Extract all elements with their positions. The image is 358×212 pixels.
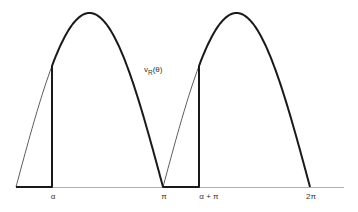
x-axis-labels: α π α + π 2π bbox=[51, 192, 317, 201]
label-two-pi: 2π bbox=[306, 192, 316, 201]
output-voltage-waveform bbox=[16, 13, 310, 187]
sine-reference-curve bbox=[16, 66, 199, 187]
label-alpha: α bbox=[51, 192, 56, 201]
label-alpha-plus-pi: α + π bbox=[199, 192, 219, 201]
waveform-diagram: vR(θ) α π α + π 2π bbox=[0, 0, 358, 212]
curve-label-vr: vR(θ) bbox=[144, 65, 163, 76]
label-pi: π bbox=[161, 192, 167, 201]
